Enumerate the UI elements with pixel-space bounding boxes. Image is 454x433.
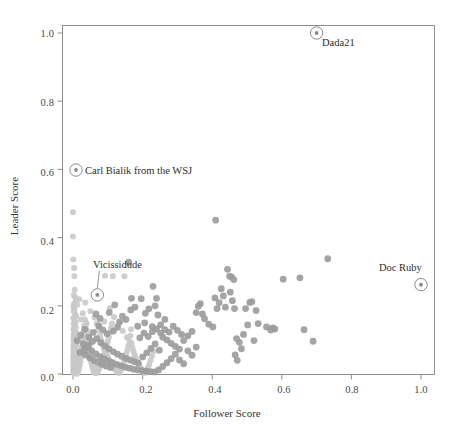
data-point	[189, 328, 196, 335]
data-point	[97, 315, 104, 322]
data-point	[111, 301, 118, 308]
data-point	[297, 274, 304, 281]
data-point	[201, 315, 208, 322]
data-point	[255, 320, 262, 327]
data-point	[78, 316, 84, 322]
data-point	[280, 276, 287, 283]
ytick-label-0.0: 0.0	[30, 372, 54, 383]
data-point	[110, 273, 116, 279]
data-point	[193, 344, 200, 351]
data-point	[271, 326, 278, 333]
data-point	[70, 234, 76, 240]
data-point	[111, 314, 117, 320]
data-point	[229, 297, 236, 304]
data-point	[234, 357, 241, 364]
data-point	[95, 323, 102, 330]
data-point	[224, 266, 231, 273]
data-point	[71, 265, 77, 271]
data-point	[218, 285, 225, 292]
data-point	[87, 308, 93, 314]
data-point	[107, 364, 114, 371]
annotation-label-vicissidude: Vicissidude	[93, 259, 142, 270]
data-point	[120, 328, 126, 334]
data-point	[81, 326, 88, 333]
data-point	[248, 298, 255, 305]
xtick-label-0.0: 0.0	[66, 384, 79, 395]
data-point	[82, 299, 88, 305]
xtick-label-0.6: 0.6	[277, 384, 290, 395]
data-point	[216, 299, 223, 306]
data-point	[230, 276, 237, 283]
data-point	[180, 360, 187, 367]
data-point	[156, 347, 163, 354]
data-point	[251, 337, 258, 344]
data-point	[124, 334, 130, 340]
data-point	[324, 255, 331, 262]
ytick-label-0.8: 0.8	[30, 97, 54, 108]
annotation-label-doc-ruby: Doc Ruby	[379, 262, 422, 273]
data-point	[214, 305, 221, 312]
series-dark-cluster	[74, 217, 331, 376]
data-point	[138, 295, 145, 302]
data-point	[231, 305, 238, 312]
ytick-label-0.6: 0.6	[30, 167, 54, 178]
data-point	[301, 326, 308, 333]
annotated-point-marker	[415, 278, 427, 290]
data-point	[193, 309, 200, 316]
data-point	[310, 338, 317, 345]
data-point	[242, 305, 249, 312]
xtick-label-0.2: 0.2	[139, 384, 152, 395]
annotation-label-dada21: Dada21	[322, 37, 355, 48]
data-point	[227, 289, 234, 296]
data-point	[80, 310, 86, 316]
data-point	[128, 326, 134, 332]
ytick-label-1.0: 1.0	[30, 28, 54, 39]
data-point	[150, 283, 157, 290]
data-point	[110, 328, 117, 335]
data-point	[236, 339, 243, 346]
annotated-point-marker	[91, 271, 103, 301]
data-point	[161, 316, 168, 323]
data-point	[141, 319, 148, 326]
data-point	[74, 302, 80, 308]
scatter-plot-figure: 1.0 0.8 0.6 0.4 0.2 0.0 0.0 0.2 0.4 0.6 …	[0, 0, 454, 433]
data-point	[152, 302, 159, 309]
data-point	[74, 337, 81, 344]
y-axis-title: Leader Score	[8, 146, 20, 266]
ytick-label-0.2: 0.2	[30, 305, 54, 316]
data-point	[135, 360, 142, 367]
ytick-label-0.4: 0.4	[30, 236, 54, 247]
annotated-point-marker	[310, 27, 322, 39]
data-point	[119, 313, 126, 320]
data-point	[240, 331, 247, 338]
annotation-label-carl-bialik: Carl Bialik from the WSJ	[85, 165, 192, 176]
data-point	[109, 321, 115, 327]
data-point	[222, 304, 229, 311]
data-point	[155, 312, 162, 319]
data-point	[142, 310, 149, 317]
data-points-layer	[70, 209, 331, 376]
xtick-label-1.0: 1.0	[414, 384, 427, 395]
data-point	[127, 306, 134, 313]
data-point	[153, 295, 160, 302]
data-point	[72, 287, 78, 293]
data-point	[220, 293, 227, 300]
data-point	[178, 331, 185, 338]
data-point	[102, 273, 108, 279]
xtick-label-0.4: 0.4	[208, 384, 221, 395]
data-point	[172, 351, 179, 358]
data-point	[253, 307, 260, 314]
data-point	[134, 323, 141, 330]
data-point	[157, 330, 164, 337]
annotated-point-marker	[70, 164, 82, 176]
data-point	[122, 273, 128, 279]
data-point	[210, 324, 217, 331]
data-point	[238, 345, 245, 352]
data-point	[70, 209, 76, 215]
data-point	[70, 256, 76, 262]
x-axis-title: Follower Score	[0, 407, 454, 419]
data-point	[212, 217, 219, 224]
data-point	[128, 295, 135, 302]
data-point	[76, 296, 82, 302]
data-point	[197, 300, 204, 307]
